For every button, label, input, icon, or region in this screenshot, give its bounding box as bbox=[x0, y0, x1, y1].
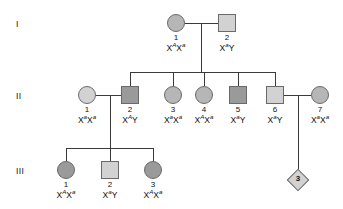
pedigree-diagram: I II III bbox=[0, 0, 343, 209]
male-square-symbol bbox=[229, 86, 247, 104]
male-square-symbol bbox=[218, 14, 236, 32]
male-square-symbol bbox=[121, 86, 139, 104]
female-circle-symbol bbox=[311, 86, 329, 104]
female-circle-symbol bbox=[164, 86, 182, 104]
individual-genotype: XAXa bbox=[125, 190, 181, 200]
male-square-symbol bbox=[266, 86, 284, 104]
individual-number: 1 bbox=[69, 105, 105, 114]
female-circle-symbol bbox=[144, 161, 162, 179]
individual-genotype: XAXa bbox=[148, 43, 204, 53]
female-circle-symbol bbox=[167, 14, 185, 32]
male-square-symbol bbox=[101, 161, 119, 179]
individual-genotype: XaY bbox=[199, 43, 255, 53]
female-circle-symbol bbox=[57, 161, 75, 179]
sibship-count: 3 bbox=[289, 174, 307, 183]
female-circle-symbol bbox=[195, 86, 213, 104]
female-circle-symbol bbox=[78, 86, 96, 104]
individual-genotype: XaXa bbox=[292, 115, 343, 125]
individual-number: 7 bbox=[302, 105, 338, 114]
